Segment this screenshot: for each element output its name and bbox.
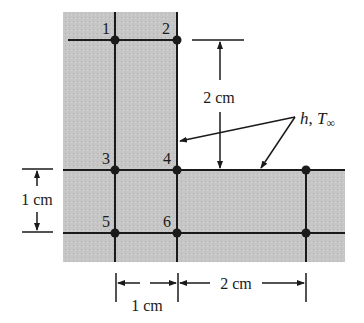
- node-label-3: 3: [102, 150, 110, 167]
- node-right-top: [302, 166, 311, 175]
- separator: ,: [309, 109, 318, 128]
- node-3: [111, 166, 120, 175]
- node-5: [111, 229, 120, 238]
- node-label-1: 1: [102, 20, 110, 37]
- node-label-6: 6: [163, 213, 171, 230]
- node-label-4: 4: [163, 150, 171, 167]
- node-4: [173, 166, 182, 175]
- convection-arrows: [180, 117, 295, 168]
- node-6: [173, 229, 182, 238]
- node-right-bottom: [302, 229, 311, 238]
- node-2: [173, 36, 182, 45]
- dimension-label-2cm-vertical: 2 cm: [203, 89, 235, 106]
- convection-label: h, T∞: [300, 109, 335, 130]
- dimension-label-2cm-horizontal: 2 cm: [220, 275, 252, 292]
- fin-grid-diagram: 1 2 3 4 5 6 2 cm 1 cm 1 cm 2 cm h, T∞: [0, 0, 364, 323]
- infinity-subscript: ∞: [326, 116, 335, 130]
- node-label-2: 2: [162, 20, 170, 37]
- dimension-label-1cm-horizontal: 1 cm: [131, 297, 163, 314]
- node-label-5: 5: [102, 213, 110, 230]
- node-1: [111, 36, 120, 45]
- dimension-label-1cm-vertical: 1 cm: [21, 191, 53, 208]
- h-symbol: h: [300, 109, 309, 128]
